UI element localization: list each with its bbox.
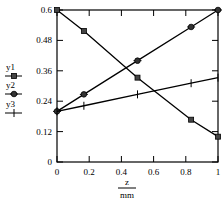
square-marker	[216, 134, 221, 139]
dot-marker	[81, 92, 87, 98]
x-tick-label: 0	[55, 167, 60, 177]
legend-item-y1: y1	[5, 62, 22, 79]
y-tick-label: 0.48	[36, 35, 52, 45]
legend-label: y1	[6, 62, 15, 72]
series-y1	[55, 8, 221, 140]
legend-item-y3: y3	[5, 99, 22, 117]
x-tick-label: 0.8	[180, 167, 192, 177]
legend-label: y2	[6, 80, 15, 90]
dot-marker	[188, 24, 194, 30]
x-axis-title: z	[125, 177, 129, 187]
x-axis-unit: mm	[120, 190, 134, 200]
y-tick-label: 0.12	[36, 127, 52, 137]
dot-marker	[215, 7, 221, 13]
dot-marker	[11, 91, 17, 97]
square-marker	[55, 8, 60, 13]
y-tick-label: 0.36	[36, 66, 52, 76]
x-tick-label: 0.4	[116, 167, 128, 177]
legend-label: y3	[6, 99, 16, 109]
square-marker	[81, 29, 86, 34]
legend-item-y2: y2	[5, 80, 22, 97]
y-tick-label: 0.24	[36, 96, 52, 106]
x-tick-label: 1	[216, 167, 221, 177]
y-tick-label: 0.6	[41, 5, 53, 15]
x-tick-label: 0.6	[148, 167, 160, 177]
dot-marker	[135, 58, 141, 64]
data-series	[53, 7, 222, 139]
line-chart: 00.120.240.360.480.600.20.40.60.81 y1y2y…	[0, 0, 223, 201]
square-marker	[135, 75, 140, 80]
y-tick-label: 0	[48, 157, 53, 167]
square-marker	[12, 74, 17, 79]
axis-ticks: 00.120.240.360.480.600.20.40.60.81	[36, 5, 220, 177]
square-marker	[189, 117, 194, 122]
legend: y1y2y3	[5, 62, 22, 117]
x-axis-label: z mm	[118, 177, 136, 200]
x-tick-label: 0.2	[84, 167, 95, 177]
